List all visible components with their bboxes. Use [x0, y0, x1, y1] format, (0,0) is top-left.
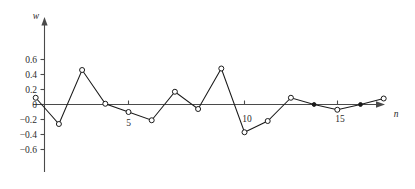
data-point-marker [56, 122, 61, 127]
x-axis-title: n [394, 109, 399, 119]
data-point-marker [288, 95, 293, 100]
y-tick-label-0: 0 [32, 100, 37, 110]
data-point-marker [265, 119, 270, 124]
data-point-marker [312, 103, 316, 107]
x-tick-label-10: 10 [242, 114, 252, 124]
data-point-marker [80, 68, 85, 73]
data-point-marker [219, 66, 224, 71]
data-point-marker [335, 107, 340, 112]
data-point-marker [172, 89, 177, 94]
data-point-marker [242, 130, 247, 135]
x-axis-tick-labels: 5 10 15 [126, 114, 345, 128]
chart-figure: 0.6 0.4 0.2 0 −0.2 −0.4 −0.6 5 10 15 w n [0, 0, 415, 189]
x-tick-label-5: 5 [126, 118, 131, 128]
data-point-marker [381, 96, 386, 101]
y-tick-label-neg0p4: −0.4 [20, 130, 37, 140]
y-tick-label-0p6: 0.6 [25, 55, 37, 65]
sequence-line-chart: 0.6 0.4 0.2 0 −0.2 −0.4 −0.6 5 10 15 w n [0, 0, 415, 189]
data-point-marker [196, 107, 201, 112]
y-axis-title: w [33, 11, 40, 21]
x-axis-arrow-icon [376, 101, 385, 107]
y-tick-label-0p4: 0.4 [25, 70, 37, 80]
y-tick-label-neg0p6: −0.6 [20, 145, 37, 155]
y-tick-label-0p2: 0.2 [25, 85, 37, 95]
data-point-marker [33, 95, 38, 100]
y-tick-label-neg0p2: −0.2 [20, 115, 37, 125]
y-axis-tick-labels: 0.6 0.4 0.2 0 −0.2 −0.4 −0.6 [20, 55, 37, 155]
data-point-marker [103, 101, 108, 106]
data-point-marker [149, 118, 154, 123]
data-point-marker [126, 110, 131, 115]
x-tick-label-15: 15 [335, 114, 345, 124]
data-series-line [36, 69, 384, 133]
data-point-marker [359, 103, 363, 107]
y-axis-arrow-icon [41, 17, 47, 26]
